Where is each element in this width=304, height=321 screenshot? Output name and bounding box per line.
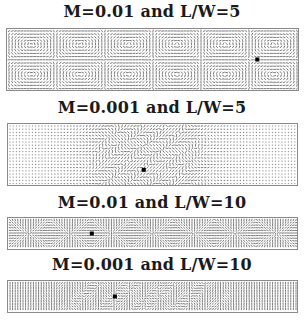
- vector-field-panel-4: [7, 280, 298, 313]
- source-marker: [142, 168, 146, 172]
- velocity-vectors: [10, 125, 296, 186]
- panel-3-title: M=0.01 and L/W=10: [0, 193, 304, 212]
- vector-field-panel-3: [7, 217, 298, 250]
- source-marker: [90, 232, 94, 236]
- panel-1-title: M=0.01 and L/W=5: [0, 2, 304, 21]
- velocity-vectors: [10, 282, 296, 311]
- velocity-vectors: [9, 219, 297, 248]
- vector-field-plot: [7, 29, 298, 90]
- velocity-vectors: [8, 30, 299, 91]
- source-marker: [255, 58, 259, 62]
- vector-field-plot: [8, 281, 297, 312]
- vector-field-panel-1: [6, 28, 299, 91]
- panel-4-title: M=0.001 and L/W=10: [0, 255, 304, 274]
- vector-field-panel-2: [7, 123, 298, 186]
- vector-field-plot: [8, 218, 297, 249]
- vector-field-plot: [8, 124, 297, 185]
- source-marker: [113, 295, 117, 299]
- panel-2-title: M=0.001 and L/W=5: [0, 98, 304, 117]
